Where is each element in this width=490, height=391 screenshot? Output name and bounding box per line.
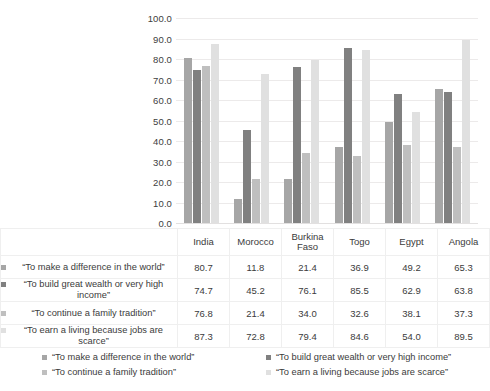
table-cell-value: 11.8 (230, 256, 282, 279)
table-cell-value: 49.2 (386, 256, 438, 279)
table-row: “To make a difference in the world”80.71… (1, 256, 490, 279)
bar-group (428, 18, 478, 223)
legend-item-label: “To build great wealth or very high inco… (276, 352, 451, 362)
table-column-header: Burkina Faso (282, 229, 334, 256)
table-row-label-text: “To make a difference in the world” (10, 262, 177, 273)
bar-group (377, 18, 427, 223)
table-cell-value: 36.9 (334, 256, 386, 279)
bar[interactable] (243, 130, 251, 223)
table-cell-value: 65.3 (438, 256, 490, 279)
bar[interactable] (335, 147, 343, 223)
y-axis-tick-label: 20.0 (130, 177, 172, 188)
table-cell-value: 85.5 (334, 279, 386, 302)
bar[interactable] (211, 44, 219, 223)
table-cell-value: 45.2 (230, 279, 282, 302)
legend-item[interactable]: “To make a difference in the world” (42, 352, 266, 362)
bar[interactable] (234, 199, 242, 223)
table-cell-value: 38.1 (386, 302, 438, 325)
bar[interactable] (311, 60, 319, 223)
bar[interactable] (403, 145, 411, 223)
table-row-label: “To earn a living because jobs are scarc… (1, 325, 178, 348)
series-swatch-icon (1, 282, 6, 287)
legend-swatch-icon (42, 355, 47, 360)
legend-item[interactable]: “To earn a living because jobs are scarc… (266, 367, 490, 377)
table-body: “To make a difference in the world”80.71… (1, 256, 490, 348)
table-row: “To continue a family tradition”76.821.4… (1, 302, 490, 325)
legend-item[interactable]: “To build great wealth or very high inco… (266, 352, 490, 362)
bar-chart-plot: 100.090.080.070.060.050.040.030.020.010.… (0, 0, 490, 228)
legend-swatch-icon (42, 370, 47, 375)
table-cell-value: 34.0 (282, 302, 334, 325)
table-cell-value: 62.9 (386, 279, 438, 302)
y-axis-tick-label: 40.0 (130, 136, 172, 147)
table-cell-value: 87.3 (178, 325, 230, 348)
y-axis-tick-label: 10.0 (130, 197, 172, 208)
series-swatch-icon (1, 311, 6, 316)
legend-item[interactable]: “To continue a family tradition” (42, 367, 266, 377)
series-swatch-icon (1, 265, 6, 270)
data-table: IndiaMoroccoBurkina FasoTogoEgyptAngola … (0, 228, 490, 348)
table-cell-value: 63.8 (438, 279, 490, 302)
y-axis-tick-label: 100.0 (130, 13, 172, 24)
bar[interactable] (344, 48, 352, 223)
table-column-header: India (178, 229, 230, 256)
y-axis-tick-label: 70.0 (130, 74, 172, 85)
table-cell-value: 89.5 (438, 325, 490, 348)
table-row-label-text: “To build great wealth or very high inco… (10, 279, 177, 301)
bar[interactable] (184, 58, 192, 223)
table-cell-value: 32.6 (334, 302, 386, 325)
bar[interactable] (293, 67, 301, 223)
bar-group (226, 18, 276, 223)
bar-group (327, 18, 377, 223)
table-header-row: IndiaMoroccoBurkina FasoTogoEgyptAngola (1, 229, 490, 256)
table-cell-value: 54.0 (386, 325, 438, 348)
table-column-header: Egypt (386, 229, 438, 256)
y-axis-tick-label: 60.0 (130, 95, 172, 106)
table-corner-cell (1, 229, 178, 256)
series-swatch-icon (1, 328, 6, 333)
legend-item-label: “To earn a living because jobs are scarc… (276, 367, 448, 377)
bar[interactable] (261, 74, 269, 223)
y-axis-tick-label: 80.0 (130, 54, 172, 65)
bar[interactable] (394, 94, 402, 223)
table-row: “To build great wealth or very high inco… (1, 279, 490, 302)
table-cell-value: 74.7 (178, 279, 230, 302)
y-axis-tick-label: 90.0 (130, 33, 172, 44)
legend-item-label: “To make a difference in the world” (52, 352, 194, 362)
bar[interactable] (284, 179, 292, 223)
bar[interactable] (252, 179, 260, 223)
bar[interactable] (353, 156, 361, 223)
bar[interactable] (362, 50, 370, 223)
bar-group (176, 18, 226, 223)
bar-group (277, 18, 327, 223)
bar[interactable] (462, 40, 470, 223)
bar[interactable] (385, 122, 393, 223)
legend-item-label: “To continue a family tradition” (52, 367, 176, 377)
table-row-label-text: “To earn a living because jobs are scarc… (10, 325, 177, 347)
bar[interactable] (202, 66, 210, 223)
legend-swatch-icon (266, 370, 271, 375)
table-row-label: “To continue a family tradition” (1, 302, 178, 325)
bar[interactable] (412, 112, 420, 223)
table-cell-value: 72.8 (230, 325, 282, 348)
bar[interactable] (193, 70, 201, 223)
table-row-label-text: “To continue a family tradition” (10, 308, 177, 319)
bar[interactable] (444, 92, 452, 223)
bar[interactable] (435, 89, 443, 223)
table-cell-value: 21.4 (230, 302, 282, 325)
table-cell-value: 80.7 (178, 256, 230, 279)
y-axis-tick-label: 0.0 (130, 218, 172, 229)
table-row-label: “To build great wealth or very high inco… (1, 279, 178, 302)
y-axis-tick-label: 50.0 (130, 115, 172, 126)
bar-groups (176, 18, 478, 223)
table-cell-value: 76.1 (282, 279, 334, 302)
table-column-header: Angola (438, 229, 490, 256)
y-axis-tick-label: 30.0 (130, 156, 172, 167)
chart-legend: “To make a difference in the world”“To b… (0, 352, 490, 377)
y-axis: 100.090.080.070.060.050.040.030.020.010.… (130, 18, 172, 223)
table-column-header: Morocco (230, 229, 282, 256)
bar[interactable] (302, 153, 310, 223)
table-cell-value: 76.8 (178, 302, 230, 325)
bar[interactable] (453, 147, 461, 223)
legend-swatch-icon (266, 355, 271, 360)
